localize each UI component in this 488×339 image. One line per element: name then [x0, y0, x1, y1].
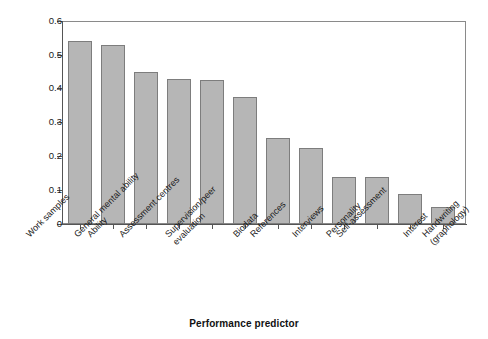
bar-chart: 0 0.1 0.2 0.3 0.4 0.5 0.6: [0, 0, 488, 339]
y-tick-label: 0.5: [34, 50, 62, 60]
y-tick-group-3: 0.3: [0, 122, 62, 123]
y-tick-group-4: 0.4: [0, 88, 62, 89]
y-tick-label: 0.6: [34, 16, 62, 26]
x-tick-mark-1: [113, 224, 114, 229]
y-tick-group-5: 0.5: [0, 55, 62, 56]
x-tick-mark-9: [377, 224, 378, 229]
y-tick-group-1: 0.1: [0, 190, 62, 191]
x-tick-mark-4: [212, 224, 213, 229]
y-tick-label: 0.2: [34, 151, 62, 161]
y-tick-label: 0.1: [34, 185, 62, 195]
y-tick-group-6: 0.6: [0, 21, 62, 22]
y-tick-label: 0.4: [34, 83, 62, 93]
x-tick-mark-6: [278, 224, 279, 229]
x-tick-mark-2: [146, 224, 147, 229]
y-tick-label: 0.3: [34, 117, 62, 127]
bar-biodata: [233, 97, 257, 224]
bar-assessment-centres: [167, 79, 191, 224]
y-tick-group-2: 0.2: [0, 156, 62, 157]
bar-work-samples: [68, 41, 92, 224]
x-axis-title: Performance predictor: [0, 318, 488, 329]
